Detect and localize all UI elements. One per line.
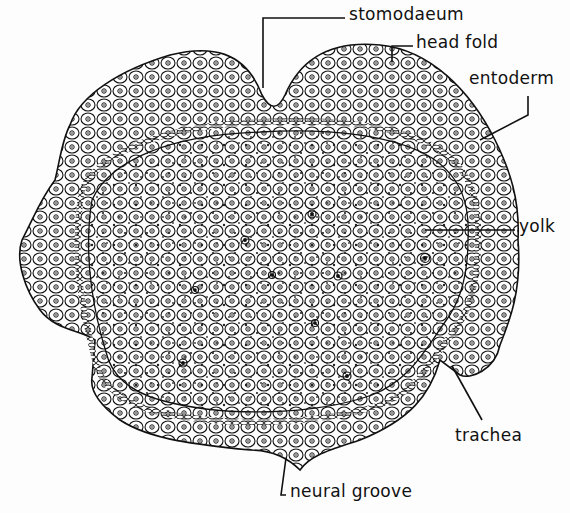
label-trachea: trachea xyxy=(455,427,522,444)
label-entoderm: entoderm xyxy=(469,70,554,87)
label-stomodaeum: stomodaeum xyxy=(349,6,464,23)
label-head-fold: head fold xyxy=(416,34,498,51)
label-neural-groove: neural groove xyxy=(290,483,412,500)
neural-groove-leader xyxy=(281,458,286,495)
embryo-section-diagram: stomodaeum head fold entoderm yolk trach… xyxy=(0,0,570,513)
label-yolk: yolk xyxy=(519,218,555,235)
